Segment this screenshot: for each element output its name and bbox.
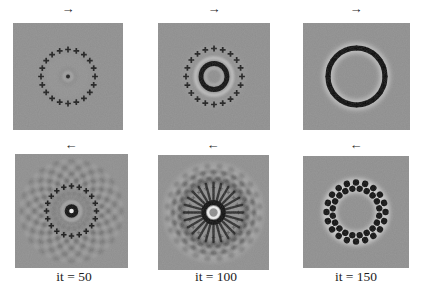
forward-arrow-icon: → <box>350 2 363 16</box>
iteration-label-it150: it = 150 <box>335 269 377 285</box>
iteration-label-it50: it = 50 <box>56 269 91 285</box>
wavefield-image-reversed-it150 <box>303 156 409 268</box>
wavefield-image-forward-3 <box>303 23 410 130</box>
time-reversal-figure: → → → ← ← ← it = 50 it = 100 it = 150 <box>0 0 430 298</box>
panel-reversed-it50 <box>15 154 128 268</box>
wavefield-image-reversed-it50 <box>15 154 128 268</box>
reverse-arrow-icon: ← <box>207 138 220 152</box>
panel-reversed-it100 <box>158 155 269 270</box>
forward-arrow-icon: → <box>208 2 221 16</box>
panel-forward-3 <box>303 23 410 130</box>
iteration-label-it100: it = 100 <box>195 269 237 285</box>
wavefield-image-forward-1 <box>13 23 123 130</box>
forward-arrow-icon: → <box>62 2 75 16</box>
reverse-arrow-icon: ← <box>65 138 78 152</box>
reverse-arrow-icon: ← <box>350 138 363 152</box>
panel-forward-2 <box>158 23 270 130</box>
wavefield-image-forward-2 <box>158 23 270 130</box>
panel-reversed-it150 <box>303 156 409 268</box>
panel-forward-1 <box>13 23 123 130</box>
wavefield-image-reversed-it100 <box>158 155 269 270</box>
